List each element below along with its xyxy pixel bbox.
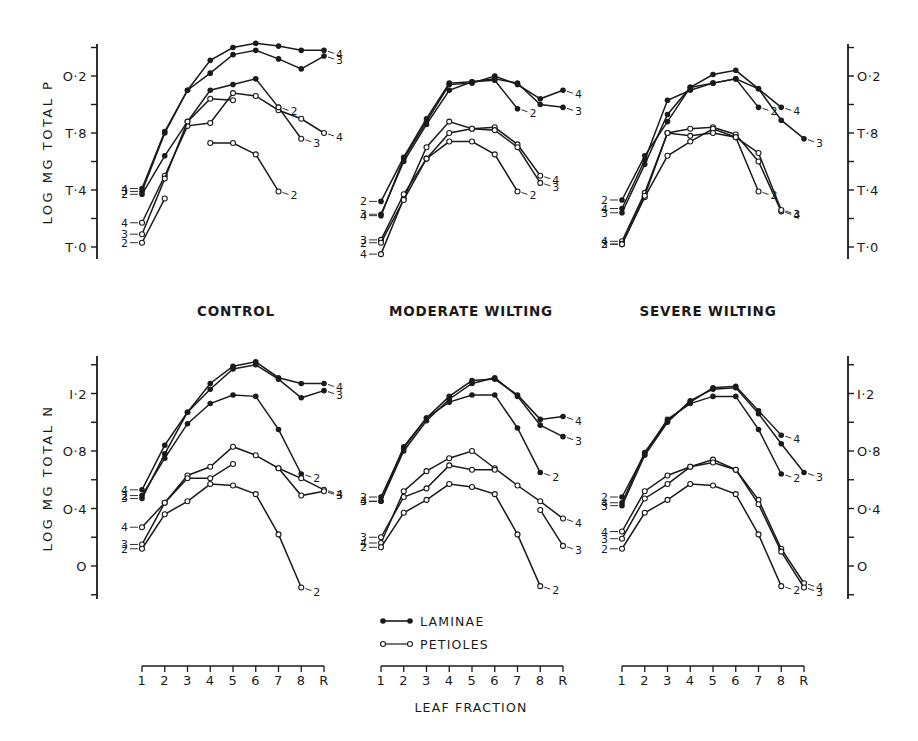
legend-item-laminae: LAMINAE [380, 614, 484, 629]
series-petioles-2: 22 [601, 482, 800, 598]
series-end-label: 3 [313, 137, 320, 150]
series-start-label: 2 [601, 194, 608, 207]
x-tick-label: 1 [138, 673, 147, 688]
series-petioles-2: 22 [360, 482, 559, 598]
y-tick-label: T·8 [64, 126, 87, 141]
x-tick-label: 8 [777, 673, 786, 688]
series-petioles-3: 33 [360, 463, 582, 557]
x-axis-2: 12345678R [377, 666, 568, 688]
series-start-label: 3 [360, 208, 367, 221]
series-end-label: 2 [552, 584, 559, 597]
series-start-label: 2 [601, 238, 608, 251]
series-end-label: 2 [530, 189, 537, 202]
series-end-label: 3 [816, 137, 823, 150]
x-axis-label: LEAF FRACTION [414, 700, 527, 715]
panel-n-control: 443322443322 [121, 359, 343, 598]
x-tick-label: 4 [445, 673, 454, 688]
series-start-label: 2 [360, 491, 367, 504]
y-tick-label: O [76, 559, 87, 574]
y-tick-label: O·8 [857, 444, 881, 459]
series-laminae-2: 22 [360, 392, 559, 504]
series-end-label: 3 [336, 489, 343, 502]
series-laminae-3: 33 [360, 76, 582, 221]
plot-area: 4433224433224433224433224433224433224433… [121, 40, 823, 598]
series-end-label: 3 [336, 54, 343, 67]
x-tick-label: 6 [731, 673, 740, 688]
series-end-label: 2 [793, 472, 800, 485]
x-tick-label: 5 [468, 673, 477, 688]
figure: T·0T·4T·8O·2 LOG MG TOTAL P T·0T·4T·8O·2… [0, 0, 918, 741]
x-tick-label: R [319, 673, 329, 688]
series-end-label: 3 [552, 181, 559, 194]
series-end-label: 2 [313, 472, 320, 485]
y-tick-label: O [857, 559, 868, 574]
series-start-label: 2 [360, 237, 367, 250]
y-tick-label: T·0 [856, 240, 879, 255]
y-tick-label: I·2 [857, 387, 875, 402]
x-axes: 12345678R12345678R12345678R [138, 666, 809, 688]
x-tick-label: 2 [399, 673, 408, 688]
x-tick-label: 1 [618, 673, 627, 688]
y-tick-label: T·0 [64, 240, 87, 255]
panel-n-severe-wilting: 443322443322 [601, 384, 823, 599]
x-tick-label: R [558, 673, 568, 688]
y-axis-left-p: T·0T·4T·8O·2 LOG MG TOTAL P [40, 44, 97, 259]
series-end-label: 3 [575, 544, 582, 557]
series-end-label: 3 [816, 586, 823, 599]
series-end-label: 3 [575, 435, 582, 448]
y-axis-label-n: LOG MG TOTAL N [40, 405, 55, 552]
open-marker-icon [381, 642, 386, 647]
series-start-label: 2 [121, 237, 128, 250]
x-tick-label: 4 [206, 673, 215, 688]
series-petioles-3: 33 [360, 126, 559, 247]
series-petioles-2: 22 [121, 140, 298, 249]
series-laminae-3: 33 [121, 48, 343, 199]
series-petioles-4: 44 [601, 125, 800, 249]
series-end-label: 4 [336, 131, 343, 144]
x-tick-label: 6 [251, 673, 260, 688]
series-start-label: 4 [121, 521, 128, 534]
panel-n-moderate-wilting: 443322443322 [360, 375, 582, 597]
x-tick-label: 1 [377, 673, 386, 688]
series-end-label: 3 [816, 471, 823, 484]
y-axis-label-p: LOG MG TOTAL P [40, 80, 55, 225]
x-axis-3: 12345678R [618, 666, 809, 688]
series-petioles-4: 44 [360, 449, 582, 551]
series-end-label: 3 [793, 208, 800, 221]
series-petioles-2: 22 [360, 139, 537, 250]
x-tick-label: 7 [513, 673, 522, 688]
series-laminae-3: 33 [601, 385, 823, 513]
series-start-label: 4 [360, 248, 367, 261]
x-tick-label: 3 [663, 673, 672, 688]
series-laminae-4: 44 [601, 384, 800, 510]
x-tick-label: 3 [183, 673, 192, 688]
series-end-label: 3 [575, 105, 582, 118]
x-tick-label: 2 [160, 673, 169, 688]
series-petioles-2: 22 [121, 482, 320, 599]
x-tick-label: 3 [422, 673, 431, 688]
y-tick-label: T·4 [856, 183, 879, 198]
panel-p-severe-wilting: 443322443322 [601, 68, 823, 252]
panel-title-severe: SEVERE WILTING [639, 303, 776, 319]
panel-p-control: 443322443322 [121, 40, 343, 249]
x-tick-label: 8 [297, 673, 306, 688]
series-start-label: 2 [121, 490, 128, 503]
series-start-label: 2 [360, 195, 367, 208]
y-tick-label: O·2 [63, 69, 87, 84]
x-tick-label: 7 [274, 673, 283, 688]
series-end-label: 4 [575, 517, 582, 530]
series-start-label: 2 [121, 543, 128, 556]
series-laminae-2: 22 [121, 76, 298, 201]
y-axis-left-n: OO·4O·8I·2 LOG MG TOTAL N [40, 356, 97, 599]
series-end-label: 4 [575, 415, 582, 428]
y-tick-label: O·8 [63, 444, 87, 459]
x-axis-1: 12345678R [138, 666, 329, 688]
series-start-label: 2 [121, 188, 128, 201]
series-end-label: 3 [336, 389, 343, 402]
y-tick-label: T·4 [64, 183, 87, 198]
panel-title-control: CONTROL [197, 303, 275, 319]
series-end-label: 2 [771, 105, 778, 118]
y-axis-right-n: OO·4O·8I·2 [848, 356, 881, 599]
legend-label-laminae: LAMINAE [420, 614, 484, 629]
series-end-label: 2 [291, 189, 298, 202]
